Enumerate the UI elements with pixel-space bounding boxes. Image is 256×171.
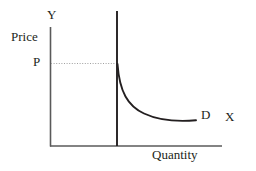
supply-demand-diagram: Y Price P D X Quantity — [0, 0, 256, 171]
y-axis-title-price: Price — [11, 30, 38, 43]
x-axis-letter-label: X — [225, 110, 234, 123]
y-axis-letter-label: Y — [47, 8, 56, 21]
demand-curve-label: D — [201, 108, 210, 121]
diagram-canvas — [0, 0, 256, 171]
demand-curve — [118, 64, 197, 121]
x-axis-title-quantity: Quantity — [152, 148, 198, 161]
price-level-label: P — [33, 55, 40, 68]
